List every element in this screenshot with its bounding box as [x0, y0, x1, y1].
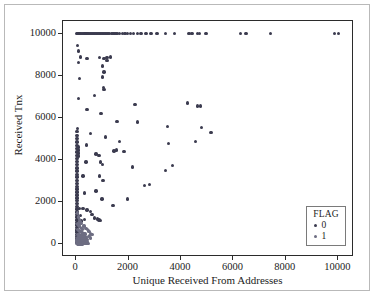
data-point [102, 88, 105, 91]
data-point [167, 142, 170, 145]
legend-entries: 01 [310, 220, 342, 242]
data-point [115, 148, 118, 151]
data-point [194, 140, 197, 143]
data-point [89, 132, 92, 135]
legend-label: 1 [321, 231, 326, 242]
data-point [101, 75, 104, 78]
data-point [118, 140, 121, 143]
data-point [81, 243, 84, 246]
legend-label: 0 [321, 220, 326, 231]
data-point [204, 32, 207, 35]
data-point [105, 59, 108, 62]
data-point [143, 184, 146, 187]
data-point [99, 219, 102, 222]
data-point [77, 154, 80, 157]
data-point [131, 165, 134, 168]
data-point [85, 143, 88, 146]
legend-item[interactable]: 1 [310, 231, 342, 242]
data-point [101, 163, 104, 166]
y-tick-label: 6000 [35, 109, 56, 125]
data-point [76, 44, 79, 47]
x-tick-label: 0 [72, 260, 77, 274]
y-tick-label: 0 [51, 235, 56, 251]
x-tick-label: 2000 [117, 260, 138, 274]
x-axis-label: Unique Received From Addresses [62, 274, 353, 286]
legend-marker-icon [314, 235, 317, 238]
data-point [136, 120, 139, 123]
data-point [104, 135, 107, 138]
legend[interactable]: FLAG 01 [306, 206, 346, 246]
legend-marker-icon [314, 224, 317, 227]
data-point [164, 169, 167, 172]
data-point [164, 32, 167, 35]
data-point [78, 77, 81, 80]
data-point [144, 32, 147, 35]
data-point [133, 103, 136, 106]
data-point [244, 32, 247, 35]
data-point [86, 242, 89, 245]
data-point [100, 197, 103, 200]
data-point [109, 55, 112, 58]
data-point [190, 32, 193, 35]
data-point [77, 97, 80, 100]
data-point [333, 32, 336, 35]
legend-title: FLAG [310, 209, 342, 220]
x-tick-label: 6000 [222, 260, 243, 274]
y-axis-ticks: 0200040006000800010000 [0, 20, 62, 256]
data-point [81, 207, 84, 210]
data-point [139, 32, 142, 35]
data-point [111, 204, 114, 207]
data-point [97, 154, 100, 157]
data-point [99, 112, 102, 115]
x-tick-label: 4000 [169, 260, 190, 274]
data-point [115, 120, 118, 123]
y-tick-label: 8000 [35, 67, 56, 83]
y-tick-label: 10000 [30, 25, 56, 41]
data-point [98, 56, 101, 59]
data-point [122, 150, 125, 153]
x-tick-label: 8000 [274, 260, 295, 274]
data-point [101, 64, 104, 67]
data-point [198, 32, 201, 35]
data-point [98, 174, 101, 177]
data-point [155, 32, 158, 35]
data-point [239, 32, 242, 35]
data-point [149, 32, 152, 35]
data-point [126, 197, 129, 200]
data-point [171, 164, 174, 167]
data-point [186, 101, 189, 104]
data-point [77, 61, 80, 64]
data-point [85, 57, 88, 60]
data-point [148, 183, 151, 186]
data-point [209, 131, 212, 134]
y-tick-label: 2000 [35, 193, 56, 209]
data-point [81, 174, 84, 177]
data-point [84, 160, 87, 163]
data-point [199, 104, 202, 107]
data-point [101, 179, 104, 182]
data-point [94, 189, 97, 192]
data-point [79, 55, 82, 58]
legend-item[interactable]: 0 [310, 220, 342, 231]
data-point [166, 125, 169, 128]
data-point [93, 94, 96, 97]
data-point [132, 32, 135, 35]
x-tick-label: 10000 [324, 260, 350, 274]
data-point [75, 130, 78, 133]
data-point [85, 108, 88, 111]
data-point [173, 32, 176, 35]
data-point [77, 49, 80, 52]
data-point [200, 126, 203, 129]
data-point [83, 218, 86, 221]
data-point [269, 32, 272, 35]
scatter-plot-figure: Received Tnx 0200040006000800010000 0200… [0, 0, 375, 296]
y-tick-label: 4000 [35, 151, 56, 167]
data-point [83, 191, 86, 194]
data-point [102, 70, 105, 73]
data-point [89, 236, 92, 239]
data-point [337, 32, 340, 35]
